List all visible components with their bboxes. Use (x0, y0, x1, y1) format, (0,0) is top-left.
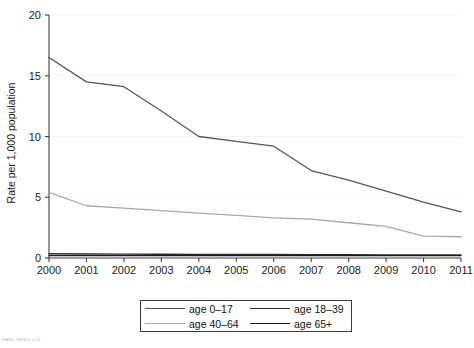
y-tick-label: 0 (35, 252, 41, 264)
x-tick-label: 2008 (336, 264, 360, 276)
series-line (49, 192, 461, 236)
gridlines-group (49, 15, 461, 197)
y-tick-label: 5 (35, 191, 41, 203)
x-tick-label: 2009 (374, 264, 398, 276)
legend-item: age 65+ (246, 318, 351, 330)
chart-figure: 05101520 2000200120022003200420052006200… (0, 0, 474, 348)
legend-label: age 18–39 (294, 303, 344, 315)
x-tick-label: 2002 (112, 264, 136, 276)
x-tick-labels-group: 2000200120022003200420052006200720082009… (37, 264, 473, 276)
x-tick-label: 2004 (187, 264, 211, 276)
x-tick-label: 2000 (37, 264, 61, 276)
plot-canvas: 05101520 2000200120022003200420052006200… (0, 0, 474, 348)
legend-swatch-icon (145, 323, 185, 324)
y-axis-title: Rate per 1,000 population (2, 48, 20, 238)
x-tick-label: 2011 (449, 264, 473, 276)
x-tick-label: 2001 (74, 264, 98, 276)
y-axis-title-text: Rate per 1,000 population (5, 83, 17, 204)
legend-swatch-icon (250, 323, 290, 324)
legend-label: age 40–64 (189, 318, 239, 330)
line-chart-svg: 05101520 2000200120022003200420052006200… (0, 0, 474, 348)
series-line (49, 254, 461, 255)
x-tick-label: 2005 (224, 264, 248, 276)
series-line (49, 58, 461, 212)
y-tick-label: 20 (29, 9, 41, 21)
legend-swatch-icon (250, 308, 290, 309)
legend-label: age 0–17 (189, 303, 233, 315)
x-tick-label: 2003 (149, 264, 173, 276)
legend-item: age 0–17 (141, 303, 246, 315)
legend-swatch-icon (145, 308, 185, 309)
chart-legend: age 0–17age 18–39age 40–64age 65+ (140, 300, 352, 332)
y-tick-label: 10 (29, 131, 41, 143)
y-tick-labels-group: 05101520 (29, 9, 41, 264)
legend-item: age 40–64 (141, 318, 246, 330)
y-tick-label: 15 (29, 70, 41, 82)
x-tick-label: 2006 (261, 264, 285, 276)
x-tick-label: 2007 (299, 264, 323, 276)
data-series-group (49, 58, 461, 256)
figure-credit: RAND RR301-4.26 (2, 337, 41, 342)
x-tick-label: 2010 (411, 264, 435, 276)
legend-label: age 65+ (294, 318, 332, 330)
axes-group (45, 15, 461, 262)
legend-item: age 18–39 (246, 303, 351, 315)
